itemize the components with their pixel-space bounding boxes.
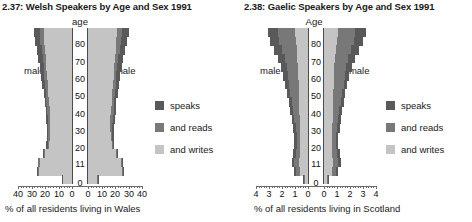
value-axis-minor-tick bbox=[368, 186, 369, 188]
value-axis-minor-tick bbox=[29, 186, 30, 188]
value-axis-minor-tick bbox=[23, 186, 24, 188]
legend-label: speaks bbox=[401, 101, 431, 111]
value-axis-minor-tick bbox=[261, 186, 262, 188]
legend-label: speaks bbox=[170, 101, 200, 111]
age-band-bar bbox=[256, 175, 308, 184]
welsh-age-axis-label: age bbox=[60, 16, 100, 27]
value-axis-minor-tick bbox=[303, 186, 304, 188]
age-band-bar bbox=[18, 175, 72, 184]
value-axis-minor-tick bbox=[104, 186, 105, 188]
value-axis-label: 40 bbox=[134, 190, 150, 199]
value-axis-minor-tick bbox=[300, 186, 301, 188]
value-axis-minor-tick bbox=[134, 186, 135, 188]
value-axis-minor-tick bbox=[327, 186, 328, 188]
legend-swatch-speaks-icon bbox=[386, 101, 395, 110]
age-band-bar bbox=[324, 175, 376, 184]
gaelic-panel: 2.38: Gaelic Speakers by Age and Sex 199… bbox=[236, 0, 472, 222]
legend-label: and reads bbox=[170, 123, 212, 133]
value-axis-minor-tick bbox=[61, 186, 62, 188]
value-axis-minor-tick bbox=[355, 186, 356, 188]
value-axis-label: 0 bbox=[300, 190, 316, 199]
value-axis-minor-tick bbox=[305, 186, 306, 188]
value-axis-minor-tick bbox=[93, 186, 94, 188]
value-axis-minor-tick bbox=[287, 186, 288, 188]
value-axis-minor-tick bbox=[266, 186, 267, 188]
legend-label: and writes bbox=[170, 145, 213, 155]
value-axis-minor-tick bbox=[126, 186, 127, 188]
welsh-female-bars bbox=[88, 28, 142, 184]
value-axis-minor-tick bbox=[120, 186, 121, 188]
gaelic-caption: % of all residents living in Scotland bbox=[254, 203, 400, 214]
value-axis-minor-tick bbox=[334, 186, 335, 188]
gaelic-pyramid-plot: 80706050403020110 bbox=[256, 28, 376, 184]
value-axis-minor-tick bbox=[48, 186, 49, 188]
age-tick-label: 40 bbox=[309, 110, 323, 119]
age-band-bar bbox=[88, 175, 142, 184]
value-axis-minor-tick bbox=[110, 186, 111, 188]
age-tick-label: 11 bbox=[73, 160, 87, 169]
value-axis-minor-tick bbox=[272, 186, 273, 188]
value-axis-label: 0 bbox=[64, 190, 80, 199]
value-axis-minor-tick bbox=[347, 186, 348, 188]
age-tick-label: 20 bbox=[309, 144, 323, 153]
value-axis-minor-tick bbox=[112, 186, 113, 188]
value-axis-minor-tick bbox=[137, 186, 138, 188]
value-axis-minor-tick bbox=[139, 186, 140, 188]
welsh-figure-title: 2.37: Welsh Speakers by Age and Sex 1991 bbox=[0, 1, 238, 12]
age-tick-label: 30 bbox=[309, 127, 323, 136]
value-axis-minor-tick bbox=[373, 186, 374, 188]
welsh-legend: speaksand readsand writes bbox=[155, 100, 235, 160]
value-axis-minor-tick bbox=[329, 186, 330, 188]
value-axis-minor-tick bbox=[360, 186, 361, 188]
value-axis-minor-tick bbox=[290, 186, 291, 188]
value-axis-minor-tick bbox=[107, 186, 108, 188]
value-axis-minor-tick bbox=[279, 186, 280, 188]
value-axis-minor-tick bbox=[353, 186, 354, 188]
gaelic-legend: speaksand readsand writes bbox=[386, 100, 471, 160]
age-tick-label: 70 bbox=[309, 58, 323, 67]
value-axis-minor-tick bbox=[131, 186, 132, 188]
legend-swatch-and-writes-icon bbox=[155, 145, 164, 154]
value-axis-minor-tick bbox=[67, 186, 68, 188]
age-tick-label: 40 bbox=[73, 110, 87, 119]
bar-segment-and_writes bbox=[324, 175, 327, 184]
value-axis-minor-tick bbox=[366, 186, 367, 188]
age-tick-label: 50 bbox=[309, 92, 323, 101]
gaelic-age-axis: 80706050403020110 bbox=[308, 28, 324, 184]
welsh-panel: 2.37: Welsh Speakers by Age and Sex 1991… bbox=[0, 0, 236, 222]
age-tick-label: 50 bbox=[73, 92, 87, 101]
legend-swatch-speaks-icon bbox=[155, 101, 164, 110]
value-axis-minor-tick bbox=[64, 186, 65, 188]
value-axis-minor-tick bbox=[123, 186, 124, 188]
legend-label: and reads bbox=[401, 123, 443, 133]
value-axis-minor-tick bbox=[118, 186, 119, 188]
value-axis-minor-tick bbox=[264, 186, 265, 188]
legend-swatch-and-reads-icon bbox=[386, 123, 395, 132]
value-axis-minor-tick bbox=[50, 186, 51, 188]
value-axis-label: 4 bbox=[368, 190, 384, 199]
value-axis-minor-tick bbox=[42, 186, 43, 188]
value-axis-minor-tick bbox=[96, 186, 97, 188]
gaelic-figure-title: 2.38: Gaelic Speakers by Age and Sex 199… bbox=[236, 1, 472, 12]
value-axis-minor-tick bbox=[292, 186, 293, 188]
age-tick-label: 30 bbox=[73, 127, 87, 136]
welsh-age-axis: 80706050403020110 bbox=[72, 28, 88, 184]
value-axis-minor-tick bbox=[371, 186, 372, 188]
value-axis-minor-tick bbox=[53, 186, 54, 188]
value-axis-minor-tick bbox=[99, 186, 100, 188]
legend-label: and writes bbox=[401, 145, 444, 155]
value-axis-minor-tick bbox=[37, 186, 38, 188]
value-axis-minor-tick bbox=[277, 186, 278, 188]
age-tick-label: 60 bbox=[73, 75, 87, 84]
age-tick-label: 80 bbox=[73, 40, 87, 49]
value-axis-minor-tick bbox=[345, 186, 346, 188]
gaelic-male-bars bbox=[256, 28, 308, 184]
age-tick-label: 70 bbox=[73, 58, 87, 67]
value-axis-minor-tick bbox=[274, 186, 275, 188]
welsh-male-bars bbox=[18, 28, 72, 184]
value-axis-minor-tick bbox=[285, 186, 286, 188]
age-tick-label: 60 bbox=[309, 75, 323, 84]
value-axis-minor-tick bbox=[332, 186, 333, 188]
value-axis-minor-tick bbox=[69, 186, 70, 188]
gaelic-age-axis-label: Age bbox=[294, 16, 334, 27]
